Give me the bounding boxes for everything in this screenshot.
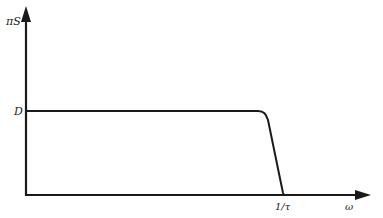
spectrum-curve: [26, 111, 285, 195]
x-axis-arrow-icon: [355, 190, 371, 200]
x-axis-label: ω: [345, 201, 353, 212]
y-axis-arrow-icon: [21, 6, 31, 22]
y-level-label: D: [13, 105, 23, 118]
y-axis-label: πS: [5, 15, 21, 28]
spectral-density-chart: πS D 1/τ ω: [0, 0, 383, 218]
x-cutoff-label: 1/τ: [275, 201, 291, 212]
